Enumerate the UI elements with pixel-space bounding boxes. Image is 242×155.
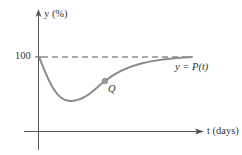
point-q-marker	[102, 78, 108, 84]
y-tick-label-100: 100	[15, 51, 31, 62]
y-axis-label: y (%)	[44, 9, 68, 20]
x-axis-label: t (days)	[207, 126, 239, 137]
point-q-label: Q	[108, 84, 116, 95]
chart-canvas	[0, 0, 242, 155]
curve-label: y = P(t)	[175, 62, 208, 73]
